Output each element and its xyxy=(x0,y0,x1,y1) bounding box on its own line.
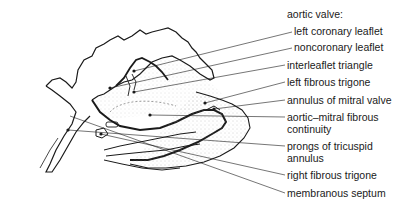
label-noncoronary-leaflet: noncoronary leaflet xyxy=(294,41,383,53)
label-aortic-mitral-fibrous-continuity: aortic–mitral fibrous xyxy=(287,111,379,123)
label-right-fibrous-trigone: right fibrous trigone xyxy=(287,169,377,181)
label-annulus-of-mitral-valve: annulus of mitral valve xyxy=(287,94,391,106)
label-prongs-of-tricuspid-annulus-line2: annulus xyxy=(287,152,324,164)
label-left-coronary-leaflet: left coronary leaflet xyxy=(294,25,383,37)
aortic-valve-heading: aortic valve: xyxy=(287,8,343,20)
label-membranous-septum: membranous septum xyxy=(287,187,386,199)
label-left-fibrous-trigone: left fibrous trigone xyxy=(287,76,370,88)
anatomy-diagram: aortic valve: left coronary leaflet nonc… xyxy=(0,0,413,214)
label-interleaflet-triangle: interleaflet triangle xyxy=(287,59,373,71)
label-prongs-of-tricuspid-annulus: prongs of tricuspid xyxy=(287,140,373,152)
label-aortic-mitral-fibrous-continuity-line2: continuity xyxy=(287,123,331,135)
